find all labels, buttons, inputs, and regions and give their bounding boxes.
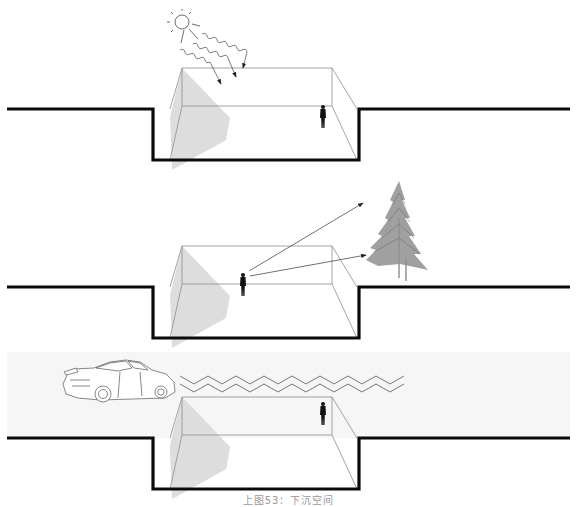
figure-caption: 上图53：下沉空间 <box>0 492 577 507</box>
panel-view <box>7 181 570 348</box>
sun-icon <box>167 9 200 43</box>
panel-sunlight <box>7 9 570 170</box>
tree-icon <box>366 181 428 281</box>
person-figure <box>240 273 246 296</box>
sunken-pit <box>7 246 570 348</box>
panel-noise <box>7 352 570 499</box>
sight-arrows <box>249 203 366 276</box>
sunken-pit <box>7 68 570 170</box>
person-figure <box>320 105 326 128</box>
